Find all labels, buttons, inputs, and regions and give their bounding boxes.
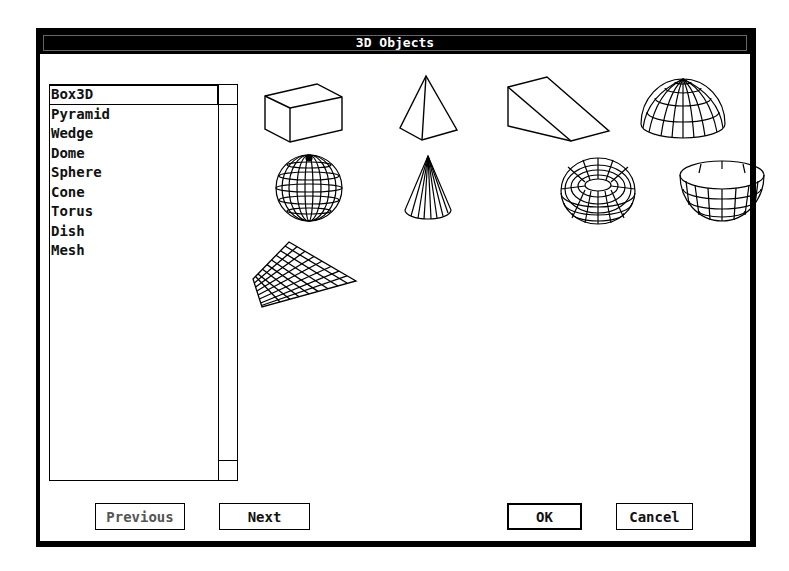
previous-button[interactable]: Previous [95, 503, 185, 530]
dialog-title: 3D Objects [40, 32, 750, 54]
next-button[interactable]: Next [219, 503, 310, 530]
list-items: Box3D Pyramid Wedge Dome Sphere Cone Tor… [50, 85, 218, 480]
cone-icon[interactable] [402, 154, 456, 224]
dish-icon[interactable] [677, 157, 767, 225]
box3d-icon[interactable] [261, 77, 345, 143]
ok-button[interactable]: OK [507, 503, 582, 530]
list-item-pyramid[interactable]: Pyramid [50, 105, 218, 125]
dome-icon[interactable] [637, 74, 729, 144]
pyramid-icon[interactable] [395, 74, 465, 142]
cancel-button[interactable]: Cancel [616, 503, 693, 530]
sphere-icon[interactable] [273, 152, 345, 224]
list-item-torus[interactable]: Torus [50, 202, 218, 222]
list-item-dome[interactable]: Dome [50, 144, 218, 164]
object-gallery [245, 70, 745, 370]
torus-icon[interactable] [558, 155, 638, 227]
list-item-cone[interactable]: Cone [50, 183, 218, 203]
list-item-mesh[interactable]: Mesh [50, 241, 218, 261]
list-scrollbar[interactable] [218, 85, 237, 480]
list-item-wedge[interactable]: Wedge [50, 124, 218, 144]
wedge-icon[interactable] [505, 76, 615, 142]
object-listbox[interactable]: Box3D Pyramid Wedge Dome Sphere Cone Tor… [49, 84, 238, 481]
list-item-box3d[interactable]: Box3D [50, 85, 218, 105]
list-item-dish[interactable]: Dish [50, 222, 218, 242]
scroll-down-button[interactable] [219, 460, 237, 480]
scroll-up-button[interactable] [219, 85, 237, 105]
mesh-icon[interactable] [252, 239, 358, 309]
list-item-sphere[interactable]: Sphere [50, 163, 218, 183]
3d-objects-dialog: 3D Objects Box3D Pyramid Wedge Dome Sphe… [36, 28, 756, 547]
